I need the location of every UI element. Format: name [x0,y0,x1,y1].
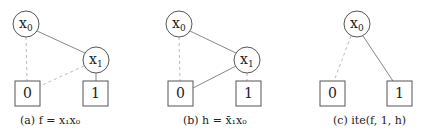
edge-x0-0-dashed [26,37,27,81]
caption-b: (b) h = x̄₁x₀ [183,114,303,127]
edge-x0-1-solid [363,36,393,81]
terminal-0-label: 0 [328,85,337,101]
terminal-1-label: 1 [395,85,404,101]
caption-c: (c) ite(f, 1, h) [333,114,421,127]
terminal-0-label: 0 [23,85,32,101]
edge-x1-0-dashed [40,66,84,86]
figure-b: x0 x1 0 1 [166,11,261,106]
edge-x0-0-dashed [334,36,351,81]
edge-x1-0-solid [193,66,236,88]
caption-a: (a) f = x₁x₀ [20,114,140,127]
edge-x0-x1-solid [37,31,85,53]
figure-a: x0 x1 0 1 [13,11,109,106]
figure-c: x0 0 1 [320,11,412,106]
terminal-0-label: 0 [176,85,185,101]
edge-x0-0-dashed [179,37,180,81]
terminal-1-label: 1 [91,85,100,101]
terminal-1-label: 1 [244,85,253,101]
edge-x0-x1-solid [190,31,236,53]
